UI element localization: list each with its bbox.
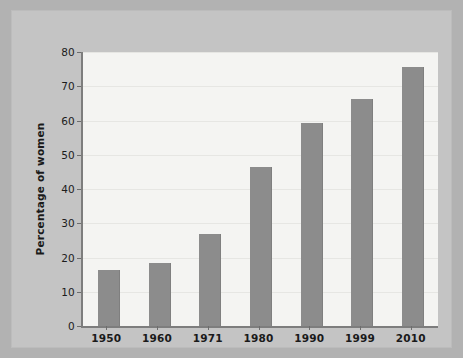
y-tick-label: 80 — [49, 46, 75, 58]
x-tick-label: 1990 — [284, 332, 334, 344]
y-tick-mark — [77, 52, 81, 53]
y-tick-mark — [77, 292, 81, 293]
y-tick-label: 50 — [49, 149, 75, 161]
chart-figure: Percentage of women 01020304050607080 19… — [0, 0, 463, 358]
x-tick-label: 1960 — [132, 332, 182, 344]
y-tick-mark — [77, 86, 81, 87]
x-tick-label: 1999 — [335, 332, 385, 344]
y-tick-mark — [77, 223, 81, 224]
x-tick-mark — [106, 326, 107, 330]
chart-canvas: Percentage of women 01020304050607080 19… — [11, 10, 452, 348]
x-tick-mark — [411, 326, 412, 330]
x-tick-label: 1980 — [234, 332, 284, 344]
y-tick-label: 20 — [49, 252, 75, 264]
x-tick-mark — [157, 326, 158, 330]
x-tick-mark — [259, 326, 260, 330]
x-tick-mark — [309, 326, 310, 330]
y-tick-mark — [77, 155, 81, 156]
y-tick-label: 0 — [49, 320, 75, 332]
x-tick-label: 2010 — [386, 332, 436, 344]
y-tick-mark — [77, 326, 81, 327]
x-tick-mark — [208, 326, 209, 330]
y-tick-label: 40 — [49, 183, 75, 195]
y-axis: 01020304050607080 — [11, 10, 452, 348]
y-tick-label: 30 — [49, 217, 75, 229]
y-tick-mark — [77, 258, 81, 259]
y-tick-label: 10 — [49, 286, 75, 298]
y-tick-label: 60 — [49, 115, 75, 127]
x-tick-mark — [360, 326, 361, 330]
x-tick-label: 1971 — [183, 332, 233, 344]
x-tick-label: 1950 — [81, 332, 131, 344]
y-tick-mark — [77, 189, 81, 190]
y-tick-label: 70 — [49, 80, 75, 92]
y-tick-mark — [77, 121, 81, 122]
